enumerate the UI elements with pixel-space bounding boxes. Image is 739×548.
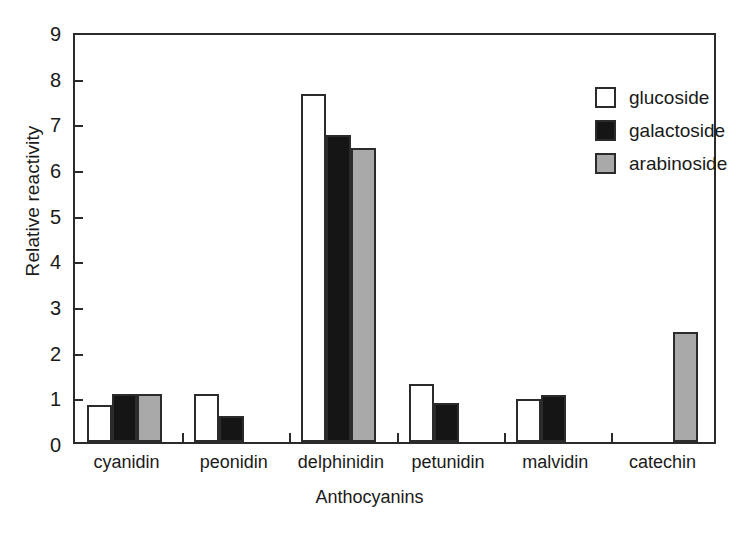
legend-item-galactoside: galactoside: [595, 114, 727, 147]
y-tick-label: 7: [21, 112, 61, 138]
legend-swatch-glucoside: [595, 87, 616, 108]
bar-chart: Relative reactivity 0123456789 glucoside…: [0, 0, 739, 548]
legend-label-arabinoside: arabinoside: [629, 153, 727, 175]
y-tick-label: 8: [21, 67, 61, 93]
bar-peonidin-galactoside: [219, 416, 244, 442]
bar-cyanidin-glucoside: [87, 405, 112, 442]
y-tick-mark: [75, 354, 83, 356]
y-tick-label: 0: [21, 432, 61, 458]
x-label-peonidin: peonidin: [180, 452, 287, 473]
x-label-delphinidin: delphinidin: [287, 452, 394, 473]
x-tick-mark: [611, 433, 613, 442]
legend-swatch-arabinoside: [595, 153, 616, 174]
bar-malvidin-galactoside: [541, 395, 566, 442]
y-tick-mark: [75, 399, 83, 401]
bar-petunidin-glucoside: [409, 384, 434, 442]
bar-delphinidin-galactoside: [326, 135, 351, 442]
y-tick-mark: [75, 217, 83, 219]
plot-area: 0123456789 glucoside galactoside arabino…: [73, 33, 716, 444]
y-tick-label: 1: [21, 386, 61, 412]
x-label-malvidin: malvidin: [502, 452, 609, 473]
y-tick-mark: [75, 308, 83, 310]
y-tick-label: 4: [21, 249, 61, 275]
x-axis-title: Anthocyanins: [0, 487, 739, 508]
bar-cyanidin-galactoside: [112, 394, 137, 442]
x-tick-mark: [289, 433, 291, 442]
y-tick-label: 6: [21, 158, 61, 184]
bar-delphinidin-arabinoside: [351, 148, 376, 442]
legend: glucoside galactoside arabinoside: [595, 81, 727, 180]
bar-cyanidin-arabinoside: [137, 394, 162, 442]
legend-item-glucoside: glucoside: [595, 81, 727, 114]
legend-label-galactoside: galactoside: [629, 120, 725, 142]
y-tick-label: 2: [21, 341, 61, 367]
y-tick-mark: [75, 80, 83, 82]
legend-swatch-galactoside: [595, 120, 616, 141]
x-tick-mark: [504, 433, 506, 442]
x-label-catechin: catechin: [609, 452, 716, 473]
y-tick-label: 3: [21, 295, 61, 321]
y-tick-mark: [75, 125, 83, 127]
bar-peonidin-glucoside: [194, 394, 219, 442]
x-tick-mark: [182, 433, 184, 442]
y-tick-mark: [75, 262, 83, 264]
legend-item-arabinoside: arabinoside: [595, 147, 727, 180]
y-tick-label: 5: [21, 204, 61, 230]
bar-delphinidin-glucoside: [301, 94, 326, 442]
bar-malvidin-glucoside: [516, 399, 541, 442]
y-tick-mark: [75, 171, 83, 173]
y-tick-label: 9: [21, 21, 61, 47]
legend-label-glucoside: glucoside: [629, 87, 709, 109]
x-label-cyanidin: cyanidin: [73, 452, 180, 473]
x-label-petunidin: petunidin: [395, 452, 502, 473]
bar-petunidin-galactoside: [434, 403, 459, 442]
bar-catechin-arabinoside: [673, 332, 698, 443]
x-tick-mark: [397, 433, 399, 442]
